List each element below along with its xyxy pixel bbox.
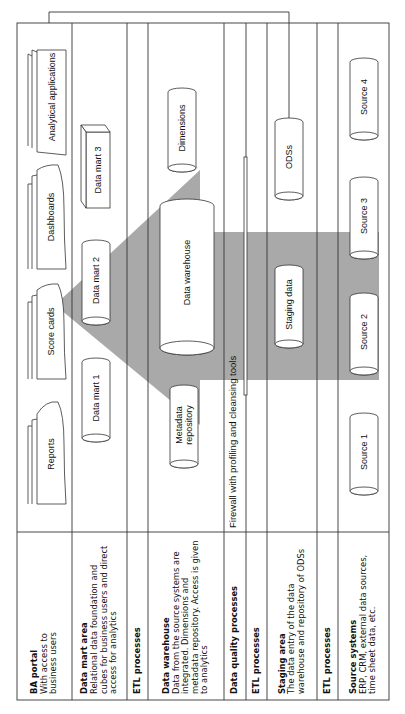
source-3-label: Source 3 xyxy=(350,181,378,251)
data-mart-2-label: Data mart 2 xyxy=(82,244,110,317)
lane-title: Data quality processes xyxy=(230,538,240,694)
score-cards-label: Score cards xyxy=(37,284,64,379)
ods-label: ODSs xyxy=(275,122,303,192)
source-1-label: Source 1 xyxy=(350,417,378,487)
lane-label-etl-3: ETL processes xyxy=(317,538,338,694)
source-2-label: Source 2 xyxy=(350,297,378,367)
lane-label-etl-1: ETL processes xyxy=(127,538,148,694)
source-4-label: Source 4 xyxy=(350,62,378,132)
lane-desc: Relational data foundation and cubes for… xyxy=(90,538,119,694)
lane-title: ETL processes xyxy=(133,538,143,694)
lane-label-ba-portal: BA portal With access to business users xyxy=(17,538,72,694)
dimensions-label: Dimensions xyxy=(168,92,196,164)
data-mart-1-label: Data mart 1 xyxy=(82,362,110,434)
firewall-label: Firewall with profiling and cleansing to… xyxy=(226,328,240,528)
lane-label-staging-area: Staging area The data entry of the data … xyxy=(267,538,317,694)
analytical-applications-label: Analytical applications xyxy=(37,52,66,142)
lane-desc: ERP, CRM, external data sources, time sh… xyxy=(359,538,378,694)
lane-title: ETL processes xyxy=(323,538,333,694)
lane-desc: Data from the source systems are integra… xyxy=(172,538,210,694)
lane-title: ETL processes xyxy=(252,538,262,694)
reports-label: Reports xyxy=(37,404,64,504)
metadata-repository-label: Metadata repository xyxy=(170,392,198,458)
staging-data-label: Staging data xyxy=(275,269,303,340)
lane-label-data-mart-area: Data mart area Relational data foundatio… xyxy=(72,538,127,694)
data-mart-3-label: Data mart 3 xyxy=(86,132,110,208)
lane-desc: The data entry of the data warehouse and… xyxy=(287,538,306,694)
data-warehouse-label: Data warehouse xyxy=(160,206,214,339)
firewall-bar xyxy=(244,157,247,395)
lane-label-source-systems: Source systems ERP, CRM, external data s… xyxy=(338,538,389,694)
lane-desc: With access to business users xyxy=(40,614,59,694)
lane-label-data-warehouse: Data warehouse Data from the source syst… xyxy=(148,538,224,694)
dashboards-label: Dashboards xyxy=(37,165,64,269)
lane-label-etl-2: ETL processes xyxy=(246,538,267,694)
lane-label-data-quality: Data quality processes xyxy=(224,538,246,694)
architecture-diagram: BA portal With access to business users … xyxy=(0,0,405,714)
